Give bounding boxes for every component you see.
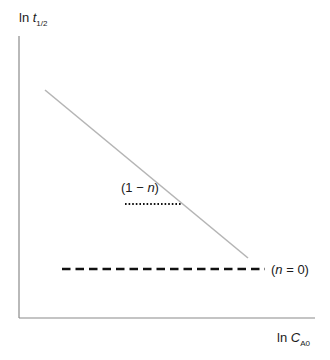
chart-canvas (0, 0, 330, 360)
y-axis-label: ln t1/2 (19, 10, 47, 25)
x-label-sub: A0 (300, 339, 310, 348)
x-label-var: C (291, 330, 300, 345)
n0-annotation: (n = 0) (271, 262, 309, 277)
y-label-prefix: ln (19, 10, 33, 25)
slope-annotation: (1 − n) (121, 180, 159, 195)
n0-var: n (275, 262, 282, 277)
solid-line-series (45, 90, 248, 258)
x-axis-label: ln CA0 (277, 330, 310, 345)
slope-open: (1 − (121, 180, 147, 195)
n0-rest: = 0) (283, 262, 309, 277)
x-label-prefix: ln (277, 330, 291, 345)
y-label-sub: 1/2 (36, 19, 47, 28)
slope-close: ) (155, 180, 159, 195)
slope-var: n (147, 180, 154, 195)
